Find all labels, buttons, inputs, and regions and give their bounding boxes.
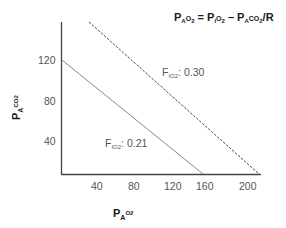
x-axis-label: PAO2 <box>113 207 133 221</box>
fio2-030-line <box>89 22 259 174</box>
x-tick-200: 200 <box>239 180 257 192</box>
y-tick-40: 40 <box>44 135 56 147</box>
y-tick-80: 80 <box>44 95 56 107</box>
fio2-021-label: FIO2: 0.21 <box>105 137 147 150</box>
x-tick-40: 40 <box>91 180 103 192</box>
chart-plot-area <box>0 0 286 228</box>
y-axis-label: PACO2 <box>10 95 24 120</box>
x-tick-160: 160 <box>196 180 214 192</box>
y-tick-120: 120 <box>38 54 56 66</box>
fio2-030-label: FIO2: 0.30 <box>162 66 204 79</box>
x-tick-80: 80 <box>128 180 140 192</box>
x-tick-120: 120 <box>164 180 182 192</box>
